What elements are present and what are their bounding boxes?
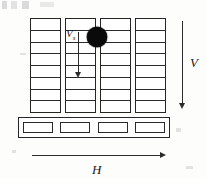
grid-cell [101,66,130,78]
base-cell-2 [60,122,90,133]
inner-velocity-label: Vs [66,28,75,42]
grid-cell [31,19,60,31]
diagram-canvas: Vs V H [0,0,207,179]
grid-cell [66,78,95,90]
inner-velocity-symbol: V [66,27,73,39]
arrow-shaft [78,32,79,74]
scan-artifact-secondary [40,2,54,7]
scan-speck [176,128,181,132]
grid-cell [136,54,165,66]
grid-cell [31,31,60,43]
grid-cell [101,54,130,66]
arrow-head-icon [160,152,166,158]
grid-cell [31,43,60,55]
grid-cell [101,43,130,55]
base-cell-3 [98,122,128,133]
base-cell-1 [23,122,53,133]
grid-cell [136,66,165,78]
scan-speck [12,150,16,153]
grid-cell [136,19,165,31]
grid-cell [136,101,165,112]
grid-cell [66,101,95,112]
grid-cell [136,31,165,43]
scan-speck [186,166,193,169]
grid-cell [66,90,95,102]
base-cell-4 [135,122,165,133]
base-beam [18,117,170,138]
arrow-shaft [32,155,162,156]
arrow-head-icon [75,72,81,78]
column-1 [30,18,61,113]
grid-cell [31,54,60,66]
grid-cell [31,78,60,90]
scan-speck [20,53,26,55]
grid-cell [136,90,165,102]
grid-cell [31,101,60,112]
grid-cell [31,66,60,78]
grid-cell [66,54,95,66]
scan-artifact [2,1,36,9]
impact-mass-icon [87,27,107,47]
arrow-shaft [182,21,183,105]
horizontal-load-label: H [92,163,101,176]
grid-cell [101,19,130,31]
grid-cell [136,78,165,90]
vertical-load-label: V [190,56,198,69]
grid-cell [136,43,165,55]
inner-velocity-subscript: s [73,34,76,42]
grid-cell [101,101,130,112]
grid-cell [101,90,130,102]
column-4 [135,18,166,113]
arrow-head-icon [179,103,185,109]
grid-cell [31,90,60,102]
grid-cell [101,78,130,90]
